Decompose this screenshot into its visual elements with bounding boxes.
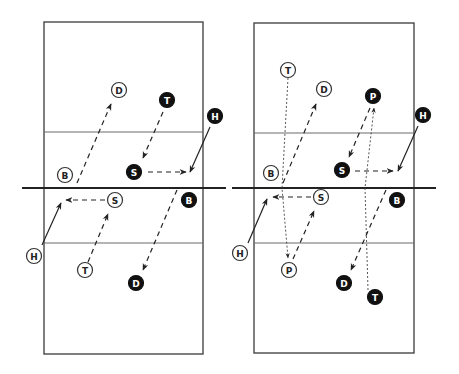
path-b-to-d — [283, 104, 316, 183]
player-marker-b: B — [390, 193, 405, 208]
path-b-to-d-bottom — [351, 190, 386, 270]
path-b-to-d-bottom — [143, 190, 177, 270]
left-court — [22, 22, 226, 354]
svg-text:T: T — [372, 293, 379, 303]
svg-text:B: B — [62, 171, 69, 181]
path-p-to-s-bottom — [293, 211, 314, 259]
svg-text:D: D — [340, 279, 347, 289]
svg-text:S: S — [131, 168, 137, 178]
svg-text:H: H — [419, 111, 427, 121]
player-marker-h: H — [27, 249, 42, 264]
player-marker-t: T — [160, 93, 175, 108]
svg-text:T: T — [82, 266, 89, 276]
player-marker-d: D — [317, 82, 332, 97]
player-marker-t: T — [281, 63, 296, 78]
svg-text:P: P — [370, 92, 377, 102]
svg-text:D: D — [132, 279, 139, 289]
svg-text:H: H — [30, 252, 38, 262]
player-marker-p: P — [366, 89, 381, 104]
svg-text:D: D — [320, 85, 327, 95]
player-marker-d: D — [129, 276, 144, 291]
path-h-solid — [190, 127, 210, 172]
player-marker-s: S — [314, 190, 329, 205]
player-marker-b: B — [58, 168, 73, 183]
svg-text:S: S — [339, 166, 345, 176]
svg-text:B: B — [394, 196, 401, 206]
player-marker-t: T — [368, 290, 383, 305]
player-marker-s: S — [108, 193, 123, 208]
player-marker-d: D — [112, 83, 127, 98]
right-court — [232, 23, 436, 353]
player-marker-b: B — [264, 166, 279, 181]
svg-text:T: T — [285, 66, 292, 76]
path-t-to-p-dotted — [282, 78, 288, 258]
player-marker-p: P — [282, 263, 297, 278]
svg-text:P: P — [286, 266, 293, 276]
player-marker-b: B — [182, 193, 197, 208]
player-marker-h: H — [208, 109, 223, 124]
player-marker-h: H — [416, 108, 431, 123]
path-t-to-s-bottom — [88, 214, 108, 262]
svg-text:B: B — [186, 196, 193, 206]
svg-text:B: B — [268, 169, 275, 179]
svg-text:H: H — [211, 112, 219, 122]
svg-text:T: T — [164, 96, 171, 106]
svg-text:S: S — [318, 193, 324, 203]
player-marker-s: S — [127, 165, 142, 180]
svg-text:H: H — [236, 249, 244, 259]
path-h-solid-bottom — [42, 203, 61, 245]
path-t-to-s — [143, 112, 163, 158]
path-t-to-p-dotted-right — [365, 108, 374, 290]
volleyball-rotation-diagram: DTHBSSBHTDTDPHBSSBHPDT — [0, 0, 459, 374]
path-b-to-d — [77, 104, 111, 183]
path-h-solid-bottom — [248, 199, 267, 243]
player-marker-h: H — [233, 246, 248, 261]
player-marker-s: S — [335, 163, 350, 178]
svg-text:D: D — [115, 86, 122, 96]
svg-text:S: S — [112, 196, 118, 206]
player-marker-d: D — [337, 276, 352, 291]
player-marker-t: T — [78, 263, 93, 278]
players-layer: DTHBSSBHTDTDPHBSSBHPDT — [27, 63, 431, 305]
